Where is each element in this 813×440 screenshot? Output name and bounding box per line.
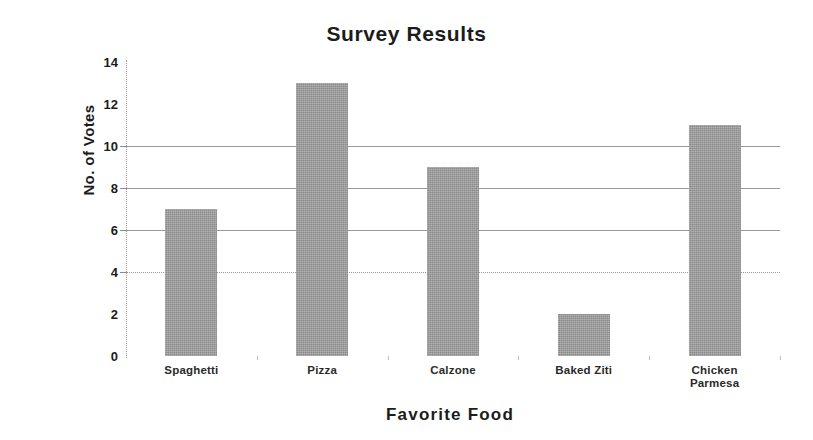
y-axis-tick-label: 12 — [84, 98, 118, 111]
x-axis-category-label: ChickenParmesa — [649, 364, 780, 390]
x-axis-tick-mark — [780, 356, 781, 360]
y-axis-tick-label: 10 — [84, 140, 118, 153]
y-axis-tick-mark — [120, 272, 127, 273]
x-axis-category-labels: SpaghettiPizzaCalzoneBaked ZitiChickenPa… — [126, 364, 780, 404]
x-axis-category-label: Calzone — [388, 364, 519, 377]
y-axis-tick-mark — [120, 230, 127, 231]
plot-area — [126, 62, 780, 356]
y-axis-tick-label: 2 — [84, 308, 118, 321]
x-axis-tick-mark — [649, 356, 650, 360]
y-axis-tick-labels: 02468101214 — [78, 0, 118, 440]
y-axis-tick-mark — [120, 188, 127, 189]
bar — [689, 125, 741, 356]
survey-results-bar-chart: Survey Results No. of Votes 02468101214 … — [0, 0, 813, 440]
y-axis-tick-label: 0 — [84, 350, 118, 363]
chart-title: Survey Results — [0, 22, 813, 46]
bar — [165, 209, 217, 356]
bar — [296, 83, 348, 356]
y-axis-tick-label: 6 — [84, 224, 118, 237]
x-axis-tick-mark — [257, 356, 258, 360]
x-axis-tick-mark — [518, 356, 519, 360]
x-axis-tick-mark — [388, 356, 389, 360]
x-axis-category-label: Spaghetti — [126, 364, 257, 377]
y-axis-tick-label: 4 — [84, 266, 118, 279]
bar — [558, 314, 610, 356]
x-axis-category-label: Pizza — [257, 364, 388, 377]
x-axis-category-label: Baked Ziti — [518, 364, 649, 377]
y-axis-tick-label: 8 — [84, 182, 118, 195]
gridline — [126, 146, 780, 147]
y-axis-tick-label: 14 — [84, 56, 118, 69]
bar — [427, 167, 479, 356]
y-axis-tick-mark — [120, 146, 127, 147]
x-axis-title: Favorite Food — [120, 405, 780, 425]
